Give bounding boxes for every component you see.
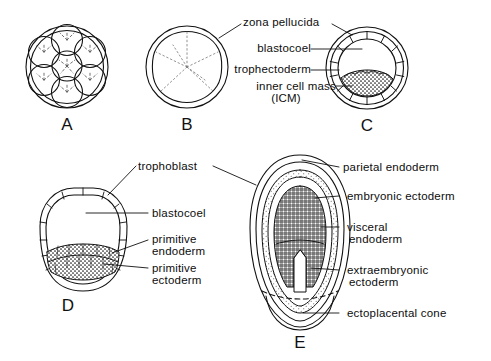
panel-letter-a: A [61, 115, 73, 134]
label-blastocoel-c: blastocoel [229, 42, 311, 55]
panel-b-compacted-morula [146, 26, 228, 108]
panel-letter-d: D [62, 296, 74, 315]
label-blastocoel-d: blastocoel [152, 207, 206, 220]
label-primitive-endoderm: primitive [152, 233, 197, 246]
label-primitive-ectoderm: primitive [152, 262, 197, 275]
panel-a-morula [26, 25, 108, 109]
panel-c-blastocyst [326, 27, 408, 109]
label-visceral-endoderm-line2: endoderm [349, 233, 402, 246]
label-embryonic-ectoderm: embryonic ectoderm [347, 190, 455, 203]
label-visceral-endoderm: visceral [347, 221, 388, 234]
label-extraembryonic-ectoderm: extraembryonic [347, 264, 428, 277]
panel-letter-e: E [294, 333, 305, 352]
label-extraembryonic-ectoderm-line2: ectoderm [349, 276, 399, 289]
panel-d-blastocyst [40, 188, 127, 291]
label-ectoplacental-cone: ectoplacental cone [347, 307, 447, 320]
label-inner-cell-mass: inner cell mass [219, 80, 336, 93]
panel-letter-c: C [361, 116, 373, 135]
label-zona-pellucida: zona pellucida [243, 16, 319, 29]
label-primitive-ectoderm-line2: ectoderm [152, 274, 202, 287]
panel-letter-b: B [181, 115, 192, 134]
panel-e-egg-cylinder [250, 155, 350, 330]
label-trophoblast: trophoblast [138, 160, 197, 173]
label-trophectoderm: trophectoderm [219, 63, 311, 76]
label-parietal-endoderm: parietal endoderm [343, 161, 439, 174]
label-inner-cell-mass-abbrev: (ICM) [236, 92, 336, 105]
label-primitive-endoderm-line2: endoderm [152, 245, 205, 258]
